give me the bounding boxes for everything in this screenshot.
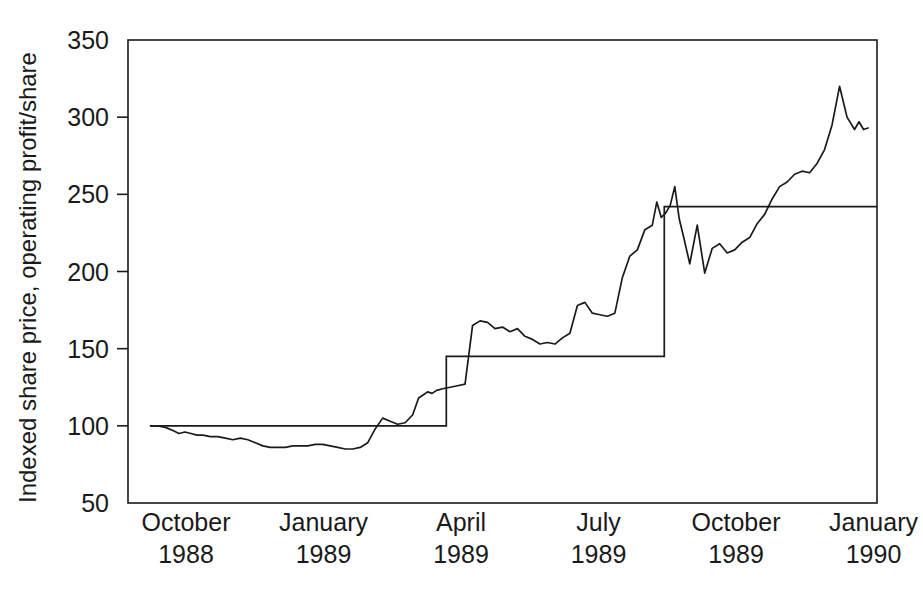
chart-figure: 50100150200250300350 October1988January1… bbox=[0, 0, 923, 594]
share-price-line bbox=[150, 86, 868, 449]
x-tick-label-month: January bbox=[279, 508, 368, 536]
y-axis-ticks bbox=[117, 117, 128, 426]
x-tick-label-year: 1989 bbox=[708, 540, 764, 568]
y-tick-label: 250 bbox=[67, 180, 109, 208]
x-tick-label-year: 1989 bbox=[433, 540, 489, 568]
x-tick-label-month: April bbox=[436, 508, 486, 536]
x-tick-label-year: 1988 bbox=[158, 540, 214, 568]
x-tick-label-year: 1989 bbox=[296, 540, 352, 568]
y-tick-label: 100 bbox=[67, 412, 109, 440]
x-tick-label-year: 1990 bbox=[846, 540, 902, 568]
x-tick-label-month: October bbox=[692, 508, 781, 536]
y-tick-label: 50 bbox=[81, 489, 109, 517]
x-tick-label-month: July bbox=[576, 508, 621, 536]
operating-profit-step-line bbox=[150, 207, 877, 426]
x-tick-label-month: October bbox=[142, 508, 231, 536]
x-axis-tick-labels: October1988January1989April1989July1989O… bbox=[142, 508, 919, 568]
y-tick-label: 200 bbox=[67, 258, 109, 286]
y-axis-tick-labels: 50100150200250300350 bbox=[67, 26, 109, 517]
plot-frame bbox=[128, 40, 877, 503]
x-tick-label-year: 1989 bbox=[571, 540, 627, 568]
y-tick-label: 350 bbox=[67, 26, 109, 54]
chart-svg: 50100150200250300350 October1988January1… bbox=[0, 0, 923, 594]
x-tick-label-month: January bbox=[829, 508, 918, 536]
y-tick-label: 300 bbox=[67, 103, 109, 131]
y-axis-title: Indexed share price, operating profit/sh… bbox=[14, 52, 41, 503]
y-tick-label: 150 bbox=[67, 335, 109, 363]
